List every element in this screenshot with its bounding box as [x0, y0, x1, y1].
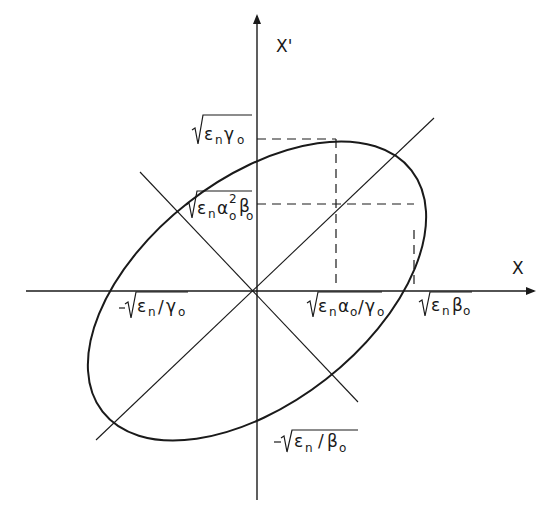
svg-text:ε: ε [294, 431, 303, 451]
svg-text:o: o [339, 441, 346, 455]
svg-text:α: α [217, 198, 228, 218]
emittance-ellipse-diagram: X' X εn γo εn αo 2 βo εn / γo εn αo / γo… [0, 0, 544, 519]
svg-text:β: β [452, 295, 463, 315]
svg-text:n: n [442, 304, 450, 318]
svg-text:o: o [229, 209, 236, 223]
svg-text:γ: γ [166, 296, 176, 316]
svg-text:n: n [148, 305, 156, 319]
svg-text:n: n [215, 133, 223, 147]
svg-text:n: n [305, 441, 313, 455]
svg-text:o: o [246, 209, 253, 223]
label-sqrt-en-alpha0sq-beta0: εn αo 2 βo [186, 191, 253, 223]
svg-text:n: n [329, 305, 337, 319]
x-axis-label: X [512, 258, 524, 278]
svg-text:2: 2 [229, 192, 237, 206]
major-axis-line [96, 118, 434, 440]
svg-text:n: n [208, 207, 216, 221]
label-sqrt-en-beta0: εn βo [419, 292, 472, 318]
svg-text:ε: ε [204, 124, 213, 144]
x-prime-axis-label: X' [276, 36, 292, 56]
svg-text:o: o [237, 133, 244, 147]
svg-text:/: / [318, 431, 324, 451]
svg-text:ε: ε [431, 295, 440, 315]
svg-text:ε: ε [197, 198, 206, 218]
label-neg-sqrt-en-over-gamma0: εn / γo [119, 292, 188, 319]
svg-text:ε: ε [318, 296, 327, 316]
svg-text:o: o [377, 305, 384, 319]
svg-text:α: α [338, 296, 349, 316]
label-neg-sqrt-en-over-beta0: εn / βo [274, 430, 358, 455]
svg-text:/: / [358, 297, 364, 317]
svg-text:ε: ε [137, 296, 146, 316]
svg-text:γ: γ [224, 124, 234, 144]
svg-text:o: o [350, 305, 357, 319]
svg-text:/: / [158, 297, 164, 317]
dashed-guides [257, 139, 414, 288]
svg-text:β: β [327, 431, 338, 451]
label-sqrt-en-gamma0: εn γo [192, 115, 252, 147]
svg-text:o: o [463, 304, 470, 318]
svg-text:o: o [178, 305, 185, 319]
svg-text:γ: γ [365, 296, 375, 316]
label-sqrt-en-alpha0-over-gamma0: εn αo / γo [307, 292, 384, 319]
